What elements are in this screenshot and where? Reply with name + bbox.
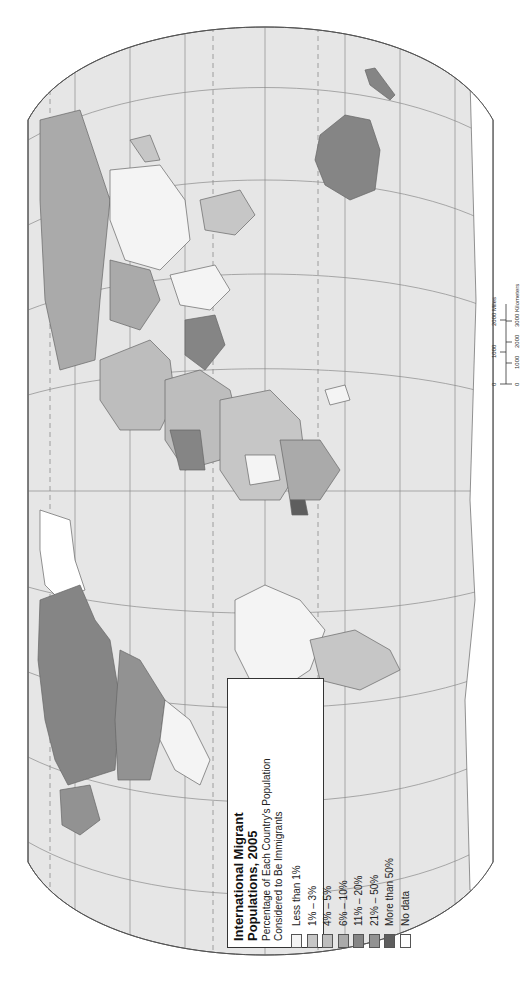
legend-item: More than 50% bbox=[382, 738, 398, 948]
legend-item-label: 21% – 50% bbox=[369, 875, 380, 926]
drc bbox=[245, 455, 280, 485]
legend-item: 11% – 20% bbox=[351, 738, 367, 948]
legend-swatch bbox=[400, 934, 411, 948]
legend-item-label: More than 50% bbox=[384, 858, 395, 926]
legend-swatch bbox=[384, 934, 395, 948]
legend-items: Less than 1%1% – 3%4% – 5%6% – 10%11% – … bbox=[289, 738, 417, 948]
legend-swatch bbox=[369, 934, 380, 948]
legend-item-label: Less than 1% bbox=[291, 865, 302, 926]
legend-item: 1% – 3% bbox=[305, 738, 321, 948]
legend-subtitle-line1: Percentage of Each Country's Population bbox=[261, 685, 272, 941]
legend-swatch bbox=[307, 934, 318, 948]
legend-item: No data bbox=[398, 738, 414, 948]
legend-item: 4% – 5% bbox=[320, 738, 336, 948]
legend-title-line2: Populations, 2005 bbox=[246, 685, 260, 941]
legend-title-line1: International Migrant bbox=[232, 685, 246, 941]
legend-swatch bbox=[338, 934, 349, 948]
legend-item-label: 1% – 3% bbox=[307, 886, 318, 926]
scale-miles-2000: 2000 Miles bbox=[491, 297, 497, 326]
scale-miles-1000: 1000 bbox=[491, 345, 497, 358]
legend-item: 6% – 10% bbox=[336, 738, 352, 948]
scale-miles-0: 0 bbox=[491, 383, 497, 386]
legend-subtitle-line2: Considered to Be Immigrants bbox=[273, 685, 284, 941]
legend-swatch bbox=[353, 934, 364, 948]
gabon-dark bbox=[290, 500, 308, 515]
scale-bar: 0 1000 2000 Miles 0 1000 2000 3000 Kilom… bbox=[488, 272, 524, 392]
scale-km-0: 0 bbox=[514, 383, 520, 386]
legend-item: 21% – 50% bbox=[367, 738, 383, 948]
scale-km-3000: 3000 Kilometers bbox=[514, 284, 520, 327]
legend-item: Less than 1% bbox=[289, 738, 305, 948]
scale-km-1000: 1000 bbox=[514, 356, 520, 369]
legend-item-label: No data bbox=[400, 891, 411, 926]
legend-item-label: 11% – 20% bbox=[353, 876, 364, 926]
legend-item-label: 4% – 5% bbox=[322, 886, 333, 926]
legend-swatch bbox=[322, 934, 333, 948]
legend-item-label: 6% – 10% bbox=[338, 880, 349, 926]
legend-swatch bbox=[291, 934, 302, 948]
scale-km-2000: 2000 bbox=[514, 335, 520, 348]
